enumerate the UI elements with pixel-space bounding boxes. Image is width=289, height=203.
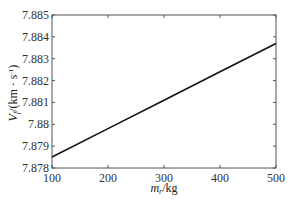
y-tick-label: 7.883 [22,52,49,66]
x-tick-label: 200 [99,171,117,185]
y-axis-label: Vf/(km · s-1) [6,65,21,122]
y-tick-label: 7.885 [22,8,49,22]
y-tick-label: 7.884 [22,30,49,44]
x-tick-label: 500 [267,171,285,185]
y-tick-label: 7.879 [22,139,49,153]
y-tick-label: 7.882 [22,74,49,88]
plot-area [52,15,276,168]
x-axis-label: mr/kg [150,181,177,196]
y-tick-label: 7.881 [22,95,49,109]
x-tick-label: 400 [211,171,229,185]
y-tick-label: 7.88 [28,117,49,131]
x-tick-label: 100 [43,171,61,185]
line-chart: 7.8787.8797.887.8817.8827.8837.8847.885 … [0,0,289,203]
